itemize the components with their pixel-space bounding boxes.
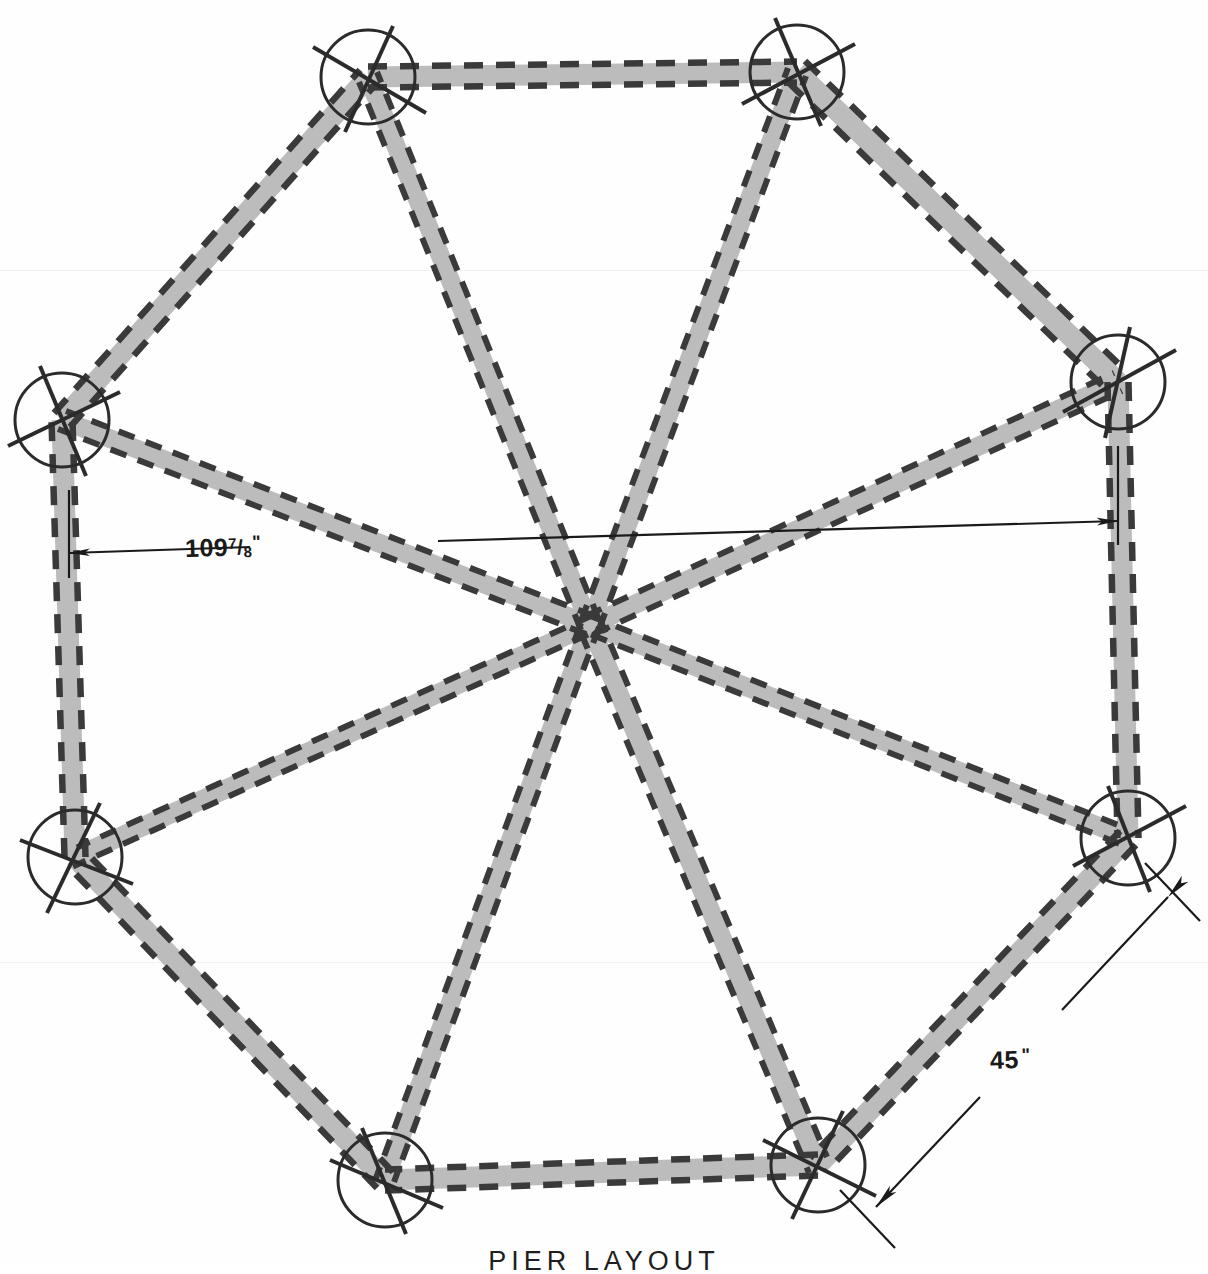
dimension-value-fraction: 7/8 bbox=[228, 535, 253, 560]
perimeter-beam-top-left bbox=[62, 77, 368, 420]
dimension-value: 45 bbox=[989, 1045, 1019, 1074]
inch-mark: " bbox=[1018, 1045, 1031, 1065]
extension-line-lower bbox=[840, 1190, 895, 1248]
beam-fill-group bbox=[62, 72, 1128, 1180]
dimension-line-upper-segment bbox=[1062, 897, 1168, 1010]
perimeter-beam-top bbox=[368, 72, 797, 77]
dimension-value-whole: 109 bbox=[185, 533, 229, 562]
dimension-label-side-length: 45" bbox=[989, 1045, 1031, 1075]
plan-title: PIER LAYOUT bbox=[0, 1246, 1208, 1274]
perimeter-beam-bottom-right bbox=[818, 838, 1128, 1165]
inch-mark: " bbox=[252, 532, 262, 552]
dimension-label-across-flats: 1097/8" bbox=[185, 532, 262, 563]
dimension-line-lower-segment bbox=[876, 1097, 980, 1207]
perimeter-beam-bottom-left bbox=[75, 857, 385, 1180]
perimeter-beam-top-right bbox=[797, 72, 1118, 382]
perimeter-beam-right bbox=[1118, 382, 1128, 838]
